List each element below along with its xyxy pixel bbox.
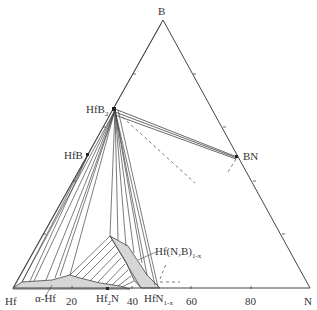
vertex-n-label: N: [304, 296, 312, 307]
vertex-hf-label: Hf: [5, 296, 17, 307]
tick-label-60: 60: [186, 296, 197, 307]
hf2n-label: Hf2N: [96, 293, 119, 307]
hfb2-label: HfB2: [86, 104, 108, 118]
hfn-label: HfN1-x: [144, 293, 173, 307]
tick-label-40: 40: [127, 296, 138, 307]
bn-label: BN: [243, 151, 258, 162]
bn-point: [235, 155, 238, 158]
tick-label-80: 80: [245, 296, 256, 307]
hfb-point: [86, 153, 89, 156]
alpha-hf-label: α-Hf: [35, 293, 56, 304]
hfb2-point: [112, 107, 116, 111]
hf2n-point: [106, 287, 109, 290]
ternary-diagram: B Hf N HfB2 HfB BN α-Hf Hf2N HfN1-x Hf(N…: [0, 0, 317, 310]
tick-label-20: 20: [66, 296, 77, 307]
solid-solution-label: Hf(N,B)1-x: [155, 246, 201, 260]
hfb-label: HfB: [64, 150, 83, 161]
vertex-b-label: B: [158, 6, 165, 17]
diagram-canvas: [0, 0, 317, 310]
hfb2-bn-tielines: [115, 109, 237, 159]
